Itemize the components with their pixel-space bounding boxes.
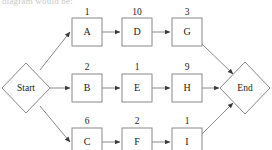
duration-label-g: 3 (185, 7, 190, 17)
duration-label-i: 1 (185, 116, 190, 126)
duration-label-d: 10 (132, 7, 142, 17)
duration-label-h: 9 (185, 62, 190, 72)
network-diagram-svg: Start End 1 A 10 D 3 G 2 B (0, 0, 272, 150)
node-d[interactable]: 10 D (122, 7, 152, 46)
edge-start-to-c (40, 106, 70, 142)
diagram-canvas: diagram would be: Start (0, 0, 272, 150)
duration-label-b: 2 (85, 62, 90, 72)
node-i[interactable]: 1 I (172, 116, 202, 150)
duration-label-c: 6 (85, 116, 90, 126)
node-d-label: D (133, 26, 140, 37)
node-g-label: G (183, 26, 190, 37)
node-c-label: C (84, 136, 91, 147)
node-end[interactable]: End (220, 62, 270, 114)
node-a-label: A (83, 26, 91, 37)
edge-i-to-end (202, 103, 233, 134)
node-g[interactable]: 3 G (172, 7, 202, 46)
edge-start-to-a (40, 32, 70, 70)
node-e[interactable]: 1 E (122, 62, 152, 102)
node-f[interactable]: 2 F (122, 116, 152, 150)
end-label: End (237, 83, 253, 93)
duration-label-e: 1 (135, 62, 140, 72)
node-e-label: E (134, 82, 140, 93)
node-h[interactable]: 9 H (172, 62, 202, 102)
node-c[interactable]: 6 C (72, 116, 102, 150)
node-b[interactable]: 2 B (72, 62, 102, 102)
node-b-label: B (84, 82, 91, 93)
duration-label-f: 2 (135, 116, 140, 126)
node-i-label: I (185, 136, 188, 147)
duration-label-a: 1 (85, 7, 90, 17)
node-f-label: F (134, 136, 140, 147)
edge-g-to-end (202, 44, 233, 74)
start-label: Start (17, 83, 35, 93)
node-start[interactable]: Start (2, 63, 50, 113)
node-a[interactable]: 1 A (72, 7, 102, 46)
node-h-label: H (183, 82, 190, 93)
